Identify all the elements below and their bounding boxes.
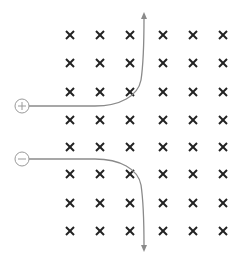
field-x-icon	[96, 199, 104, 207]
field-x-icon	[96, 59, 104, 67]
field-x-icon	[189, 227, 197, 235]
magnetic-field-diagram	[0, 0, 244, 262]
negative-charge	[15, 152, 29, 166]
field-x-icon	[66, 59, 74, 67]
field-x-icon	[219, 227, 227, 235]
field-x-icon	[189, 199, 197, 207]
arrow-up-icon	[141, 12, 147, 19]
field-x-icon	[189, 170, 197, 178]
field-x-icon	[189, 31, 197, 39]
arrow-down-icon	[141, 245, 147, 252]
field-x-icon	[159, 59, 167, 67]
field-x-icon	[66, 143, 74, 151]
field-x-icon	[66, 31, 74, 39]
field-x-icon	[96, 143, 104, 151]
field-x-icon	[219, 116, 227, 124]
field-x-icon	[159, 31, 167, 39]
field-x-icon	[189, 116, 197, 124]
field-x-icon	[126, 227, 134, 235]
field-x-icon	[96, 88, 104, 96]
field-x-icon	[66, 227, 74, 235]
field-x-icon	[126, 116, 134, 124]
field-x-icon	[96, 170, 104, 178]
field-x-icon	[159, 116, 167, 124]
field-x-icon	[219, 31, 227, 39]
field-x-icon	[66, 88, 74, 96]
magnetic-field-grid	[66, 31, 227, 235]
field-x-icon	[126, 143, 134, 151]
field-x-icon	[159, 227, 167, 235]
field-x-icon	[159, 199, 167, 207]
field-x-icon	[219, 199, 227, 207]
field-x-icon	[66, 170, 74, 178]
positive-charge	[15, 99, 29, 113]
field-x-icon	[219, 59, 227, 67]
field-x-icon	[189, 59, 197, 67]
field-x-icon	[66, 199, 74, 207]
field-x-icon	[219, 170, 227, 178]
field-x-icon	[219, 143, 227, 151]
field-x-icon	[126, 31, 134, 39]
field-x-icon	[126, 199, 134, 207]
field-x-icon	[159, 170, 167, 178]
field-x-icon	[219, 88, 227, 96]
field-x-icon	[159, 88, 167, 96]
field-x-icon	[189, 143, 197, 151]
field-x-icon	[96, 31, 104, 39]
field-x-icon	[96, 227, 104, 235]
field-x-icon	[189, 88, 197, 96]
field-x-icon	[159, 143, 167, 151]
field-x-icon	[96, 116, 104, 124]
field-x-icon	[66, 116, 74, 124]
field-x-icon	[126, 59, 134, 67]
